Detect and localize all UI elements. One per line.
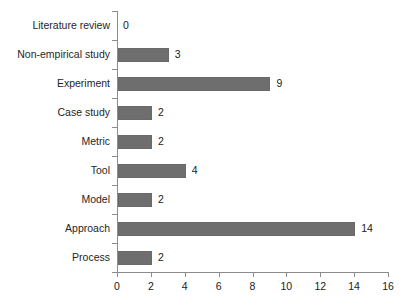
y-axis-tick (112, 243, 117, 244)
bar-group: 2 (118, 185, 164, 214)
bar[interactable] (118, 48, 169, 62)
bar-value-label: 4 (192, 165, 198, 176)
x-axis-tick-label: 10 (281, 280, 293, 292)
y-axis-tick (112, 156, 117, 157)
bar[interactable] (118, 106, 152, 120)
y-axis-tick (112, 127, 117, 128)
x-axis-tick-label: 14 (348, 280, 360, 292)
bar-group: 2 (118, 127, 164, 156)
chart-category-row: Literature review0 (0, 11, 414, 40)
y-axis-tick (112, 98, 117, 99)
category-axis-label: Approach (2, 214, 110, 243)
chart-category-row: Process2 (0, 243, 414, 272)
x-axis-tick-label: 12 (314, 280, 326, 292)
category-axis-label: Experiment (2, 69, 110, 98)
bar-group: 3 (118, 40, 181, 69)
x-axis-tick (151, 272, 152, 277)
x-axis-tick (117, 272, 118, 277)
bar-chart: Literature review0Non-empirical study3Ex… (0, 0, 414, 305)
bar-group: 14 (118, 214, 373, 243)
category-axis-label: Metric (2, 127, 110, 156)
bar-value-label: 2 (158, 252, 164, 263)
x-axis-tick-label: 2 (148, 280, 154, 292)
x-axis-tick (286, 272, 287, 277)
x-axis-tick (185, 272, 186, 277)
bar[interactable] (118, 193, 152, 207)
category-axis-label: Process (2, 243, 110, 272)
bar-value-label: 14 (361, 223, 373, 234)
bar-value-label: 2 (158, 136, 164, 147)
y-axis-tick (112, 40, 117, 41)
y-axis-tick (112, 185, 117, 186)
bar[interactable] (118, 77, 270, 91)
category-axis-label: Non-empirical study (2, 40, 110, 69)
x-axis-tick (219, 272, 220, 277)
chart-category-row: Approach14 (0, 214, 414, 243)
x-axis-tick (388, 272, 389, 277)
bar-value-label: 9 (276, 78, 282, 89)
chart-category-row: Tool4 (0, 156, 414, 185)
bar-value-label: 3 (175, 49, 181, 60)
bar[interactable] (118, 222, 355, 236)
chart-category-row: Metric2 (0, 127, 414, 156)
category-axis-label: Literature review (2, 11, 110, 40)
category-axis-label: Tool (2, 156, 110, 185)
x-axis-tick-label: 4 (182, 280, 188, 292)
chart-category-row: Experiment9 (0, 69, 414, 98)
x-axis-tick-label: 8 (250, 280, 256, 292)
x-axis-tick-label: 0 (114, 280, 120, 292)
bar-value-label: 0 (123, 20, 129, 31)
category-axis-label: Case study (2, 98, 110, 127)
chart-category-row: Case study2 (0, 98, 414, 127)
bar[interactable] (118, 135, 152, 149)
category-axis-label: Model (2, 185, 110, 214)
chart-category-row: Non-empirical study3 (0, 40, 414, 69)
y-axis-tick (112, 214, 117, 215)
bar-group: 4 (118, 156, 198, 185)
x-axis-tick (253, 272, 254, 277)
chart-category-row: Model2 (0, 185, 414, 214)
bar[interactable] (118, 164, 186, 178)
x-axis-tick (354, 272, 355, 277)
bar-group: 2 (118, 243, 164, 272)
x-axis-tick (320, 272, 321, 277)
bar-group: 0 (118, 11, 129, 40)
bar-value-label: 2 (158, 107, 164, 118)
bar-value-label: 2 (158, 194, 164, 205)
bar[interactable] (118, 251, 152, 265)
bar-group: 9 (118, 69, 282, 98)
bar-group: 2 (118, 98, 164, 127)
x-axis-tick-label: 6 (216, 280, 222, 292)
x-axis-tick-label: 16 (382, 280, 394, 292)
y-axis-tick (112, 69, 117, 70)
y-axis-tick (112, 272, 117, 273)
y-axis-tick (112, 11, 117, 12)
